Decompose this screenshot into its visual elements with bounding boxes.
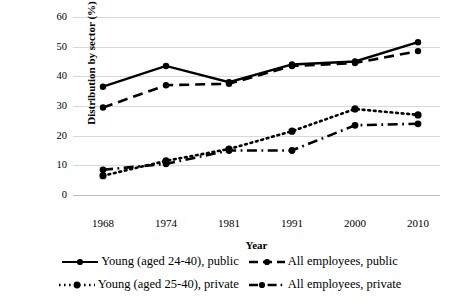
data-point-marker bbox=[163, 63, 169, 69]
legend-key-dotted-icon bbox=[59, 279, 95, 291]
data-point-marker bbox=[289, 147, 296, 154]
y-tick-label: 50 bbox=[33, 42, 67, 52]
data-point-marker bbox=[414, 111, 421, 118]
y-tick-label: 30 bbox=[33, 101, 67, 111]
series-line bbox=[103, 51, 418, 107]
data-point-marker bbox=[100, 84, 106, 90]
data-point-marker bbox=[163, 82, 169, 88]
legend-key-dashed-icon bbox=[249, 256, 285, 268]
legend-label: All employees, public bbox=[288, 255, 398, 268]
legend-item-all-public: All employees, public bbox=[249, 250, 398, 273]
plot-area: 0102030405060 Distribution by sector (%)… bbox=[73, 17, 440, 195]
line-chart: 0102030405060 Distribution by sector (%)… bbox=[0, 0, 460, 304]
legend-row-1: Young (aged 24-40), public All employees… bbox=[0, 250, 460, 273]
data-point-marker bbox=[415, 39, 421, 45]
x-tick-label: 2000 bbox=[325, 217, 385, 229]
data-point-marker bbox=[415, 48, 421, 54]
x-tick-label: 1981 bbox=[199, 217, 259, 229]
series-lines bbox=[73, 17, 440, 195]
data-point-marker bbox=[100, 104, 106, 110]
legend-key-solid-icon bbox=[62, 256, 98, 268]
series-line bbox=[103, 42, 418, 87]
x-tick-label: 1974 bbox=[136, 217, 196, 229]
data-point-marker bbox=[226, 81, 232, 87]
data-point-marker bbox=[415, 120, 422, 127]
legend-item-young-public: Young (aged 24-40), public bbox=[62, 250, 239, 273]
x-tick-label: 2010 bbox=[388, 217, 448, 229]
gridline bbox=[73, 195, 440, 196]
data-point-marker bbox=[226, 147, 233, 154]
legend-label: Young (aged 25-40), private bbox=[98, 278, 239, 291]
data-point-marker bbox=[288, 128, 295, 135]
x-tick-label: 1968 bbox=[73, 217, 133, 229]
data-point-marker bbox=[99, 172, 106, 179]
legend-item-young-private: Young (aged 25-40), private bbox=[59, 273, 239, 296]
legend-row-2: Young (aged 25-40), private All employee… bbox=[0, 273, 460, 296]
legend-key-dashdot-icon bbox=[249, 279, 285, 291]
legend-label: All employees, private bbox=[288, 278, 402, 291]
chart-legend: Young (aged 24-40), public All employees… bbox=[0, 250, 460, 296]
y-tick-label: 0 bbox=[33, 190, 67, 200]
series-line bbox=[103, 124, 418, 170]
data-point-marker bbox=[352, 122, 359, 129]
data-point-marker bbox=[100, 166, 107, 173]
legend-item-all-private: All employees, private bbox=[249, 273, 402, 296]
legend-label: Young (aged 24-40), public bbox=[101, 255, 239, 268]
y-tick-label: 10 bbox=[33, 160, 67, 170]
y-tick-label: 60 bbox=[33, 12, 67, 22]
data-point-marker bbox=[289, 63, 295, 69]
data-point-marker bbox=[352, 60, 358, 66]
y-tick-label: 40 bbox=[33, 71, 67, 81]
data-point-marker bbox=[163, 160, 170, 167]
data-point-marker bbox=[351, 105, 358, 112]
y-tick-label: 20 bbox=[33, 131, 67, 141]
x-tick-label: 1991 bbox=[262, 217, 322, 229]
